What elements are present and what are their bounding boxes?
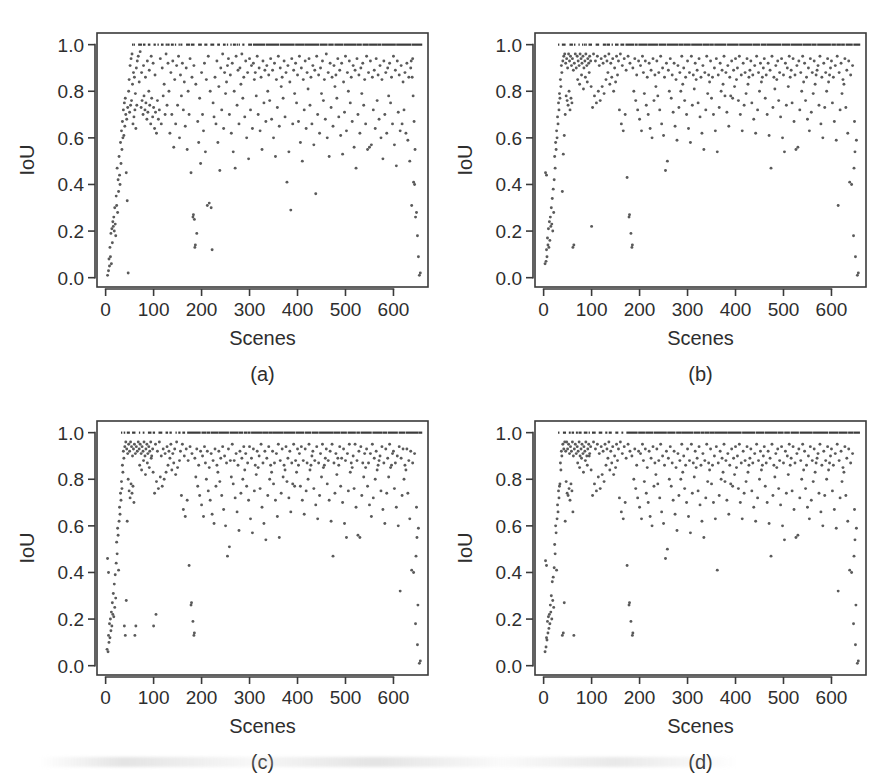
x-tick-label: 600 — [378, 687, 410, 708]
plot-frame — [97, 33, 428, 287]
x-axis-title: Scenes — [667, 715, 734, 737]
y-tick-label: 1.0 — [58, 423, 84, 444]
x-tick-label: 500 — [330, 299, 362, 320]
x-tick-label: 200 — [186, 687, 218, 708]
x-tick-label: 200 — [186, 299, 218, 320]
saturated-band — [558, 432, 860, 434]
x-tick-label: 300 — [234, 687, 266, 708]
plot-area: 0.00.20.40.60.81.00100200300400500600Sce… — [0, 0, 438, 388]
figure-grid: 0.00.20.40.60.81.00100200300400500600Sce… — [0, 0, 876, 776]
panel-caption: (c) — [251, 751, 274, 773]
saturated-band — [558, 44, 860, 46]
y-tick-label: 0.4 — [58, 174, 85, 195]
x-tick-label: 0 — [538, 687, 549, 708]
x-tick-label: 400 — [720, 687, 752, 708]
panel-caption: (d) — [688, 751, 712, 773]
x-tick-label: 500 — [768, 687, 800, 708]
x-tick-label: 300 — [672, 299, 704, 320]
y-tick-label: 0.2 — [496, 609, 522, 630]
plot-frame — [97, 421, 428, 675]
saturated-band — [132, 44, 422, 46]
scatter-panel-d: 0.00.20.40.60.81.00100200300400500600Sce… — [438, 388, 876, 776]
y-tick-label: 0.4 — [58, 562, 85, 583]
x-tick-label: 400 — [282, 299, 314, 320]
plot-area: 0.00.20.40.60.81.00100200300400500600Sce… — [438, 0, 876, 388]
x-tick-label: 600 — [816, 687, 848, 708]
x-tick-label: 600 — [378, 299, 410, 320]
y-tick-label: 1.0 — [58, 35, 84, 56]
x-axis-title: Scenes — [229, 327, 296, 349]
scatter-panel-b: 0.00.20.40.60.81.00100200300400500600Sce… — [438, 0, 876, 388]
x-axis-title: Scenes — [229, 715, 296, 737]
x-tick-label: 0 — [100, 687, 111, 708]
y-tick-label: 0.8 — [58, 81, 84, 102]
y-axis-title: IoU — [454, 532, 476, 563]
x-tick-label: 500 — [768, 299, 800, 320]
y-tick-label: 0.4 — [496, 174, 523, 195]
x-tick-label: 100 — [138, 299, 170, 320]
y-tick-label: 0.8 — [58, 469, 84, 490]
saturated-band — [121, 432, 422, 434]
y-tick-label: 0.0 — [496, 268, 522, 289]
scatter-panel-a: 0.00.20.40.60.81.00100200300400500600Sce… — [0, 0, 438, 388]
y-tick-label: 0.0 — [58, 268, 84, 289]
x-tick-label: 0 — [100, 299, 111, 320]
y-tick-label: 0.8 — [496, 81, 522, 102]
x-tick-label: 0 — [538, 299, 549, 320]
scatter-points — [544, 441, 860, 665]
y-tick-label: 0.6 — [496, 516, 522, 537]
scatter-panel-c: 0.00.20.40.60.81.00100200300400500600Sce… — [0, 388, 438, 776]
x-tick-label: 400 — [282, 687, 314, 708]
y-tick-label: 0.2 — [58, 221, 84, 242]
y-tick-label: 0.2 — [496, 221, 522, 242]
x-tick-label: 200 — [624, 299, 656, 320]
y-tick-label: 0.0 — [58, 656, 84, 677]
x-tick-label: 400 — [720, 299, 752, 320]
y-tick-label: 0.6 — [58, 128, 84, 149]
plot-area: 0.00.20.40.60.81.00100200300400500600Sce… — [0, 388, 438, 776]
y-axis-title: IoU — [16, 144, 38, 175]
panel-caption: (b) — [688, 363, 712, 385]
x-axis-title: Scenes — [667, 327, 734, 349]
x-tick-label: 100 — [576, 687, 608, 708]
x-tick-label: 500 — [330, 687, 362, 708]
x-tick-label: 300 — [672, 687, 704, 708]
y-tick-label: 0.8 — [496, 469, 522, 490]
y-tick-label: 1.0 — [496, 423, 522, 444]
scatter-points — [106, 50, 422, 277]
x-tick-label: 100 — [576, 299, 608, 320]
plot-area: 0.00.20.40.60.81.00100200300400500600Sce… — [438, 388, 876, 776]
x-tick-label: 300 — [234, 299, 266, 320]
scatter-points — [544, 53, 860, 277]
y-tick-label: 0.2 — [58, 609, 84, 630]
y-tick-label: 0.4 — [496, 562, 523, 583]
x-tick-label: 100 — [138, 687, 170, 708]
x-tick-label: 600 — [816, 299, 848, 320]
panel-caption: (a) — [250, 363, 274, 385]
x-tick-label: 200 — [624, 687, 656, 708]
y-tick-label: 1.0 — [496, 35, 522, 56]
y-tick-label: 0.6 — [58, 516, 84, 537]
y-tick-label: 0.6 — [496, 128, 522, 149]
y-axis-title: IoU — [454, 144, 476, 175]
y-axis-title: IoU — [16, 532, 38, 563]
y-tick-label: 0.0 — [496, 656, 522, 677]
scatter-points — [106, 441, 422, 665]
